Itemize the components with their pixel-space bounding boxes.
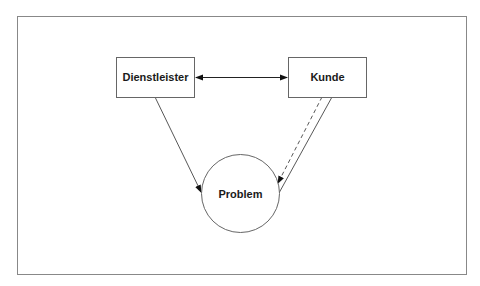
node-problem-label: Problem bbox=[218, 188, 262, 200]
node-kunde-label: Kunde bbox=[310, 71, 344, 83]
node-kunde[interactable]: Kunde bbox=[289, 58, 367, 98]
diagram-canvas: Dienstleister Kunde Problem bbox=[0, 0, 480, 286]
edge-dienstleister-problem bbox=[155, 97, 201, 192]
edge-kunde-problem-dashed bbox=[278, 97, 322, 183]
node-dienstleister-label: Dienstleister bbox=[122, 71, 189, 83]
diagram-frame bbox=[18, 17, 467, 275]
node-problem[interactable]: Problem bbox=[202, 155, 280, 233]
node-dienstleister[interactable]: Dienstleister bbox=[117, 58, 195, 98]
edge-kunde-problem-solid bbox=[279, 97, 332, 193]
